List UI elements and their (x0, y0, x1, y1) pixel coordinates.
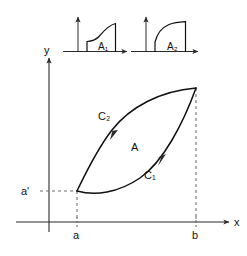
inset-1-group: A₁ (63, 17, 127, 52)
curve-c2-label: C₂ (98, 110, 110, 122)
y-axis-label: y (44, 44, 50, 56)
labels-group: a' a b C₂ A C₁ (21, 110, 198, 241)
inset-2-label: A₂ (167, 41, 178, 52)
enclosed-area-label: A (131, 141, 139, 153)
x-tick-label-a: a (73, 229, 80, 241)
curve-c2 (77, 88, 196, 191)
integral-comparison-figure: A₁ A₂ y x (0, 0, 247, 256)
inset-1-label: A₁ (98, 41, 109, 52)
guide-lines-group (40, 88, 196, 227)
y-tick-label-a-prime: a' (21, 185, 29, 197)
figure-canvas: A₁ A₂ y x (0, 0, 247, 256)
x-axis-label: x (234, 216, 240, 228)
curve-c1-label: C₁ (144, 169, 156, 181)
x-tick-label-b: b (192, 229, 198, 241)
main-axes-group: y x (16, 44, 240, 232)
inset-2-group: A₂ (131, 17, 198, 52)
